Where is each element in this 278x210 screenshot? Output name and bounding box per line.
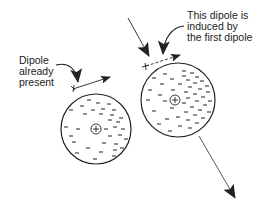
- incoming-arrow-icon: [128, 18, 149, 56]
- right-electron-cloud: [146, 71, 212, 131]
- outgoing-arrow-icon: [199, 136, 235, 198]
- left-nucleus-icon: [91, 124, 101, 134]
- right-annotation-line-3: the first dipole: [187, 32, 252, 43]
- right-atom: [141, 63, 215, 137]
- left-annotation-line-3: present: [19, 77, 54, 88]
- left-atom: [61, 94, 131, 164]
- existing-dipole-arrow-icon: [71, 77, 110, 92]
- left-annotation-label: Dipole already present: [19, 55, 54, 88]
- diagram-canvas: Dipole already present This dipole is in…: [0, 0, 278, 210]
- right-callout-arrow-icon: [163, 26, 184, 54]
- left-callout-arrow-icon: [56, 64, 78, 82]
- right-annotation-label: This dipole is induced by the first dipo…: [187, 10, 252, 43]
- right-nucleus-icon: [170, 95, 180, 105]
